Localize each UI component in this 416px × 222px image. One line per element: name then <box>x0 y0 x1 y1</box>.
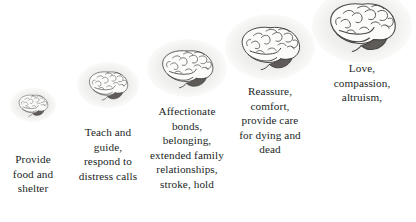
brain-icon <box>324 0 400 53</box>
stage-caption-5: Love, compassion, altruism, <box>314 61 410 105</box>
stage-5: Love, compassion, altruism, <box>292 0 416 222</box>
brain-illustration-5 <box>324 0 400 53</box>
